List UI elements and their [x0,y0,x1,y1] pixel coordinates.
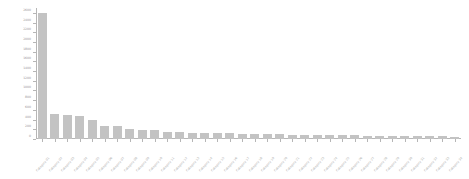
bar[interactable] [125,129,134,139]
x-tick-mark [142,139,143,142]
y-tick-label: 200 [25,125,31,128]
x-tick-mark [180,139,181,142]
bar[interactable] [88,120,97,139]
x-tick-mark [317,139,318,142]
x-tick-mark [230,139,231,142]
x-tick-mark [67,139,68,142]
bar[interactable] [100,126,109,139]
y-tick-label: 1000 [23,86,31,89]
bar[interactable] [63,115,72,139]
bar[interactable] [50,114,59,139]
x-tick-mark [167,139,168,142]
x-tick-mark [430,139,431,142]
x-tick-mark [117,139,118,142]
x-tick-mark [267,139,268,142]
x-tick-mark [417,139,418,142]
bar[interactable] [75,116,84,139]
bar[interactable] [113,126,122,139]
x-tick-mark [242,139,243,142]
bar[interactable] [150,130,159,139]
x-tick-mark [192,139,193,142]
y-tick-label: 2400 [23,19,31,22]
x-tick-mark [255,139,256,142]
bar[interactable] [175,132,184,139]
bar[interactable] [138,130,147,139]
x-tick-mark [455,139,456,142]
bar-chart-figure: 0200400600800100012001400160018002000220… [0,0,469,179]
x-tick-mark [305,139,306,142]
y-tick-label: 2200 [23,28,31,31]
x-tick-mark [205,139,206,142]
x-tick-mark [130,139,131,142]
x-tick-mark [155,139,156,142]
x-axis-ticks: Category 01Category 02Category 03Categor… [36,139,461,179]
x-tick-mark [42,139,43,142]
x-tick-mark [392,139,393,142]
x-tick-mark [217,139,218,142]
y-tick-label: 2600 [23,9,31,12]
x-tick-mark [330,139,331,142]
x-tick-mark [405,139,406,142]
x-tick-mark [80,139,81,142]
x-tick-mark [380,139,381,142]
bar[interactable] [38,13,47,139]
y-tick-label: 0 [29,135,31,138]
x-tick-mark [105,139,106,142]
x-tick-mark [342,139,343,142]
x-tick-mark [355,139,356,142]
y-tick-label: 1400 [23,67,31,70]
bar[interactable] [163,132,172,139]
x-tick-mark [280,139,281,142]
plot-area: 0200400600800100012001400160018002000220… [36,8,461,139]
bars-layer [36,8,461,139]
y-tick-label: 600 [25,106,31,109]
x-tick-mark [442,139,443,142]
y-tick-label: 1200 [23,77,31,80]
x-tick-mark [55,139,56,142]
y-tick-label: 400 [25,116,31,119]
x-tick-mark [92,139,93,142]
x-tick-mark [292,139,293,142]
y-tick-label: 800 [25,96,31,99]
y-tick-label: 1800 [23,48,31,51]
x-tick-mark [367,139,368,142]
y-tick-label: 2000 [23,38,31,41]
y-tick-label: 1600 [23,57,31,60]
